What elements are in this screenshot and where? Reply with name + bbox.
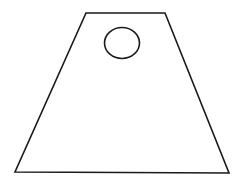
circle-shape [105, 28, 140, 59]
diagram-canvas [0, 0, 242, 188]
trapezoid-shape [15, 13, 229, 173]
diagram-svg [0, 0, 242, 188]
